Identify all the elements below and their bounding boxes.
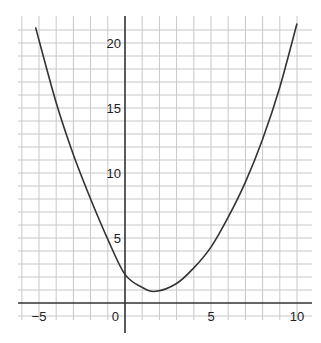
x-tick-label: 0: [112, 309, 119, 324]
y-tick-label: 10: [107, 166, 121, 181]
grid-lines: [18, 16, 312, 320]
axes: [18, 16, 312, 333]
x-tick-label: 10: [290, 309, 304, 324]
x-tick-label: 5: [207, 309, 214, 324]
chart-canvas: −505105101520: [0, 0, 321, 343]
y-tick-label: 20: [107, 36, 121, 51]
tick-labels: −505105101520: [32, 36, 305, 324]
y-tick-label: 15: [107, 101, 121, 116]
y-tick-label: 5: [114, 231, 121, 246]
x-tick-label: −5: [32, 309, 47, 324]
